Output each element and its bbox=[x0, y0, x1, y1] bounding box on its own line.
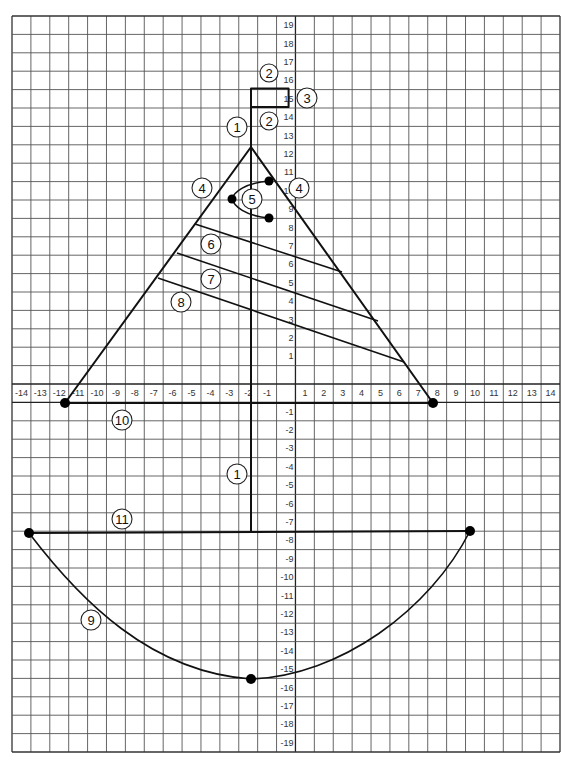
y-axis-tick-label: 11 bbox=[284, 167, 293, 177]
grid-lines bbox=[12, 16, 560, 752]
y-axis-tick-label: -10 bbox=[280, 572, 293, 582]
callout-7: 7 bbox=[201, 269, 221, 289]
point-dot bbox=[24, 528, 34, 538]
svg-text:3: 3 bbox=[303, 91, 310, 106]
y-axis-tick-label: 13 bbox=[283, 131, 293, 141]
callout-4-right: 4 bbox=[289, 178, 309, 198]
y-axis-tick-label: 6 bbox=[288, 259, 293, 269]
callout-8: 8 bbox=[171, 292, 191, 312]
svg-text:11: 11 bbox=[115, 512, 129, 527]
x-axis-tick-label: 7 bbox=[416, 388, 421, 398]
x-axis-tick-label: -1 bbox=[263, 388, 271, 398]
sail-right-edge bbox=[251, 147, 433, 403]
y-axis-tick-label: -12 bbox=[280, 609, 293, 619]
y-axis-tick-label: -7 bbox=[285, 517, 293, 527]
svg-text:2: 2 bbox=[265, 66, 272, 81]
x-axis-tick-label: -7 bbox=[150, 388, 158, 398]
point-dot bbox=[465, 526, 475, 536]
boat-drawing bbox=[24, 89, 475, 685]
svg-text:8: 8 bbox=[177, 295, 184, 310]
y-axis-tick-label: 4 bbox=[288, 296, 293, 306]
svg-text:1: 1 bbox=[233, 467, 240, 482]
x-axis-tick-label: -5 bbox=[188, 388, 196, 398]
y-axis-tick-label: -5 bbox=[285, 480, 293, 490]
y-axis-tick-label: -17 bbox=[280, 701, 293, 711]
y-axis-tick-label: 7 bbox=[288, 241, 293, 251]
y-axis-tick-label: -13 bbox=[280, 627, 293, 637]
callout-1-bottom: 1 bbox=[227, 464, 247, 484]
x-axis-tick-label: 14 bbox=[546, 388, 556, 398]
callout-9: 9 bbox=[81, 610, 101, 630]
y-axis-tick-label: -3 bbox=[285, 443, 293, 453]
svg-text:2: 2 bbox=[265, 114, 272, 129]
y-axis-tick-label: -1 bbox=[285, 407, 293, 417]
x-axis-tick-label: 10 bbox=[470, 388, 480, 398]
y-axis-tick-label: -16 bbox=[280, 683, 293, 693]
y-axis-tick-label: -2 bbox=[285, 425, 293, 435]
x-axis-tick-label: -12 bbox=[53, 388, 66, 398]
point-dot bbox=[428, 398, 438, 408]
y-axis-tick-label: 12 bbox=[283, 149, 293, 159]
y-axis-tick-label: -6 bbox=[285, 499, 293, 509]
y-axis-tick-label: 19 bbox=[283, 20, 293, 30]
x-axis-tick-label: -6 bbox=[169, 388, 177, 398]
svg-text:7: 7 bbox=[207, 272, 214, 287]
y-axis-tick-label: 5 bbox=[288, 278, 293, 288]
y-axis-tick-label: 8 bbox=[288, 223, 293, 233]
svg-text:4: 4 bbox=[198, 181, 205, 196]
x-axis-tick-label: 9 bbox=[454, 388, 459, 398]
callout-3: 3 bbox=[297, 88, 317, 108]
callout-5: 5 bbox=[242, 189, 262, 209]
svg-text:1: 1 bbox=[233, 120, 240, 135]
sailboat-diagram: -14-13-12-11-10-9-8-7-6-5-4-3-2-11234567… bbox=[0, 0, 575, 760]
x-axis-tick-label: 11 bbox=[489, 388, 498, 398]
y-axis-tick-label: -18 bbox=[280, 719, 293, 729]
x-axis-tick-label: 1 bbox=[302, 388, 307, 398]
x-axis-tick-label: 5 bbox=[378, 388, 383, 398]
svg-text:4: 4 bbox=[295, 181, 302, 196]
x-axis-tick-label: -9 bbox=[112, 388, 120, 398]
y-axis-tick-label: 1 bbox=[288, 351, 293, 361]
callout-2-top: 2 bbox=[260, 64, 278, 82]
svg-text:6: 6 bbox=[207, 237, 214, 252]
x-axis-tick-label: 2 bbox=[321, 388, 326, 398]
x-axis-tick-label: -4 bbox=[206, 388, 214, 398]
point-dot bbox=[265, 214, 274, 223]
x-axis-tick-label: -10 bbox=[91, 388, 104, 398]
callout-4-left: 4 bbox=[192, 178, 212, 198]
x-axis-tick-label: -3 bbox=[225, 388, 233, 398]
y-axis-tick-label: -4 bbox=[285, 462, 293, 472]
y-axis-tick-label: -14 bbox=[280, 646, 293, 656]
callout-10: 10 bbox=[112, 410, 132, 430]
y-axis-tick-label: -9 bbox=[285, 554, 293, 564]
y-axis-tick-label: -8 bbox=[285, 535, 293, 545]
x-axis-tick-label: -13 bbox=[34, 388, 47, 398]
y-axis-tick-label: 16 bbox=[283, 75, 293, 85]
point-dot bbox=[246, 674, 256, 684]
x-axis-tick-label: 3 bbox=[340, 388, 345, 398]
x-axis-tick-label: 4 bbox=[359, 388, 364, 398]
point-dot bbox=[60, 398, 70, 408]
y-axis-tick-label: -19 bbox=[280, 738, 293, 748]
x-axis-tick-label: 8 bbox=[435, 388, 440, 398]
y-axis-tick-label: 2 bbox=[288, 333, 293, 343]
x-axis-tick-label: -14 bbox=[15, 388, 28, 398]
y-axis-tick-label: 18 bbox=[283, 39, 293, 49]
callout-2-bottom: 2 bbox=[260, 112, 278, 130]
svg-text:5: 5 bbox=[248, 192, 255, 207]
x-axis-tick-label: 6 bbox=[397, 388, 402, 398]
y-axis-tick-label: 14 bbox=[283, 112, 293, 122]
y-axis-tick-label: -11 bbox=[281, 591, 293, 601]
svg-text:9: 9 bbox=[87, 613, 94, 628]
callout-1-top: 1 bbox=[227, 117, 247, 137]
point-dot bbox=[228, 195, 237, 204]
coordinate-grid-figure: -14-13-12-11-10-9-8-7-6-5-4-3-2-11234567… bbox=[0, 0, 575, 760]
x-axis-tick-label: 12 bbox=[508, 388, 518, 398]
x-axis-labels: -14-13-12-11-10-9-8-7-6-5-4-3-2-11234567… bbox=[15, 388, 556, 398]
x-axis-tick-label: 13 bbox=[527, 388, 537, 398]
callout-6: 6 bbox=[201, 234, 221, 254]
x-axis-tick-label: -8 bbox=[131, 388, 139, 398]
point-dot bbox=[265, 177, 274, 186]
y-axis-tick-label: 17 bbox=[283, 57, 293, 67]
sail-stripe-8 bbox=[158, 278, 404, 362]
